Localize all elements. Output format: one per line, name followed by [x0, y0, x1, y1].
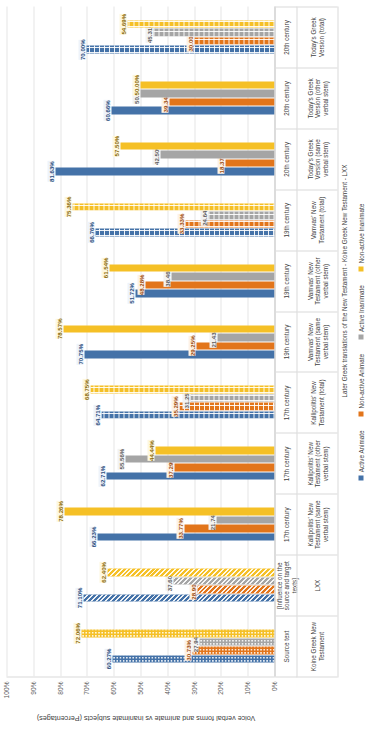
bar[interactable]: 70.75% — [84, 350, 274, 358]
y-tick-0: 0% — [271, 681, 278, 691]
category-axis-row: Koine Greek New TestamentLXXKallipolitis… — [296, 6, 338, 677]
bar[interactable]: 24.64% — [208, 211, 274, 219]
bar[interactable]: 29.25% — [196, 342, 274, 350]
bar-fill — [81, 629, 274, 637]
period-label: Source text — [275, 615, 297, 677]
bar[interactable]: 51.72% — [135, 289, 274, 297]
y-tick-60: 60% — [110, 681, 117, 694]
bar[interactable]: 78.57% — [63, 325, 274, 333]
bar-value-label: 81.63% — [47, 161, 54, 182]
bar[interactable]: 81.63% — [55, 167, 274, 175]
bar-fill — [192, 646, 274, 654]
bar-fill — [109, 264, 274, 272]
bar[interactable]: 39.34% — [169, 98, 274, 106]
legend-label: Non-active Animate — [357, 353, 364, 408]
bar[interactable]: 62.71% — [106, 472, 274, 480]
bar[interactable]: 60.66% — [111, 106, 274, 114]
bar-value-label: 66.76% — [87, 222, 94, 243]
bar-group: 81.63%18.37%42.50%57.50% — [6, 128, 274, 189]
plot-area: 60.27%30.73%27.94%72.06%71.10%28.90%37.6… — [6, 6, 274, 677]
bar-group: 66.76%33.33%24.64%75.36% — [6, 189, 274, 250]
bar[interactable]: 33.77% — [184, 524, 275, 532]
bar-group: 51.72%48.28%38.46%61.54% — [6, 250, 274, 311]
bar[interactable]: 31.25% — [190, 394, 274, 402]
y-tick-50: 50% — [137, 681, 144, 694]
bar[interactable]: 37.29% — [174, 463, 274, 471]
bar-value-label: 51.72% — [127, 283, 134, 304]
period-axis-row: Source text[Influence on the source and … — [274, 6, 297, 677]
bar[interactable]: 66.23% — [97, 533, 274, 541]
bar[interactable]: 21.43% — [217, 333, 274, 341]
bar-value-label: 50.00% — [132, 74, 139, 95]
bar-value-label: 48.28% — [137, 274, 144, 295]
bar-fill — [179, 402, 274, 410]
bar[interactable]: 38.46% — [171, 272, 274, 280]
category-label: Vamvas' New Testament (total) — [297, 189, 337, 250]
bar[interactable]: 50.00% — [140, 89, 274, 97]
period-label: 20th century — [275, 67, 297, 128]
bar-fill — [111, 106, 274, 114]
legend-swatch-icon — [358, 334, 363, 339]
period-label: 17th century — [275, 432, 297, 493]
bar[interactable]: 50.00% — [140, 81, 274, 89]
bar[interactable]: 45.31% — [153, 28, 274, 36]
bar[interactable]: 64.71% — [101, 411, 274, 419]
bar-value-label: 68.75% — [82, 379, 89, 400]
bar[interactable]: 21.74% — [216, 516, 274, 524]
bar[interactable]: 68.75% — [90, 385, 274, 393]
bar-value-label: 33.77% — [176, 518, 183, 539]
period-label: 17th century — [275, 371, 297, 432]
bar[interactable]: 72.06% — [81, 629, 274, 637]
legend-item[interactable]: Non-active Inanimate — [357, 203, 364, 271]
bar-value-label: 78.57% — [55, 318, 62, 339]
bar[interactable]: 60.27% — [112, 655, 274, 663]
bar[interactable]: 62.40% — [107, 568, 274, 576]
bar-fill — [216, 516, 274, 524]
bar-fill — [83, 594, 274, 602]
legend-item[interactable]: Active Inanimate — [357, 285, 364, 340]
bar[interactable]: 66.76% — [95, 228, 274, 236]
bar[interactable]: 61.54% — [109, 264, 274, 272]
bar-value-label: 66.23% — [89, 526, 96, 547]
bar[interactable]: 30.00% — [194, 37, 274, 45]
bar[interactable]: 30.73% — [192, 646, 274, 654]
bar[interactable]: 28.90% — [197, 585, 274, 593]
category-label: Today's Greek Version (total) — [297, 6, 337, 67]
bar[interactable]: 44.44% — [155, 446, 274, 454]
bar[interactable]: 70.00% — [86, 45, 274, 53]
bar[interactable]: 57.50% — [120, 142, 274, 150]
bar-value-label: 71.10% — [75, 587, 82, 608]
bar-fill — [153, 28, 274, 36]
bar-value-label: 62.71% — [98, 465, 105, 486]
bar-fill — [107, 568, 274, 576]
bar[interactable]: 42.50% — [160, 150, 274, 158]
bar-fill — [217, 333, 274, 341]
bar-value-label: 72.06% — [73, 622, 80, 643]
bar[interactable]: 35.29% — [179, 402, 274, 410]
bar-fill — [95, 228, 274, 236]
bar-group: 70.75%29.25%21.43%78.57% — [6, 311, 274, 372]
bar-fill — [199, 638, 274, 646]
y-tick-20: 20% — [217, 681, 224, 694]
bar-fill — [64, 507, 274, 515]
legend-item[interactable]: Non-active Animate — [357, 353, 364, 416]
bar[interactable]: 37.60% — [173, 577, 274, 585]
legend-item[interactable]: Active Animate — [357, 430, 364, 480]
bar-value-label: 33.33% — [177, 213, 184, 234]
bar[interactable]: 27.94% — [199, 638, 274, 646]
bar[interactable]: 71.10% — [83, 594, 274, 602]
bar-fill — [86, 45, 274, 53]
bar[interactable]: 18.37% — [225, 159, 274, 167]
bar-fill — [208, 211, 274, 219]
bar[interactable]: 75.36% — [72, 203, 274, 211]
bar-fill — [196, 342, 274, 350]
bar-group: 71.10%28.90%37.60%62.40% — [6, 554, 274, 615]
category-label: Today's Greek Version (same verbal stem) — [297, 128, 337, 189]
bar[interactable]: 54.69% — [127, 20, 274, 28]
bar-fill — [225, 159, 274, 167]
bar-value-label: 60.27% — [104, 648, 111, 669]
bar[interactable]: 33.33% — [185, 220, 274, 228]
bar[interactable]: 78.26% — [64, 507, 274, 515]
bar-group: 60.27%30.73%27.94%72.06% — [6, 615, 274, 676]
group-span-label — [336, 555, 350, 677]
